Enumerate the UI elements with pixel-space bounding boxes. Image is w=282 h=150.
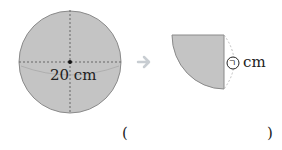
quarter-sector (172, 35, 224, 89)
answer-close-paren: ) (267, 124, 273, 142)
diagram-canvas (0, 0, 282, 150)
answer-open-paren: ( (122, 124, 128, 142)
circle-diameter-label: 20 cm (50, 66, 96, 84)
center-dot (68, 60, 72, 64)
sector-label-symbol: ㄱ (228, 56, 236, 69)
arrow-icon (138, 57, 149, 67)
sector-label-unit: cm (243, 53, 266, 71)
